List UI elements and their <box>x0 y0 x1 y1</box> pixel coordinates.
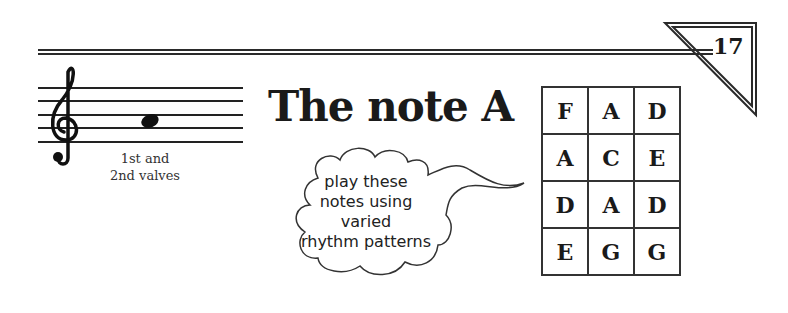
valve-caption: 1st and 2nd valves <box>90 150 200 184</box>
note-grid-row: E G G <box>542 228 680 275</box>
note-grid-row: A C E <box>542 134 680 181</box>
note-grid-cell: G <box>634 228 680 275</box>
note-grid-cell: E <box>634 134 680 181</box>
bubble-text: play these notes using varied rhythm pat… <box>296 172 436 252</box>
bubble-line1: play these <box>296 172 436 192</box>
note-grid-cell: A <box>588 181 634 228</box>
bubble-line2: notes using <box>296 192 436 212</box>
note-grid-row: F A D <box>542 87 680 134</box>
bubble-line3: varied <box>296 212 436 232</box>
note-grid: F A D A C E D A D E G G <box>541 86 681 276</box>
page-number: 17 <box>713 33 744 59</box>
note-grid-cell: D <box>634 87 680 134</box>
note-grid-cell: G <box>588 228 634 275</box>
bubble-line4: rhythm patterns <box>296 232 436 252</box>
note-grid-cell: D <box>634 181 680 228</box>
note-grid-cell: C <box>588 134 634 181</box>
note-grid-cell: F <box>542 87 588 134</box>
note-grid-cell: D <box>542 181 588 228</box>
treble-clef-icon <box>53 68 77 164</box>
note-grid-cell: A <box>588 87 634 134</box>
note-grid-cell: E <box>542 228 588 275</box>
page-title: The note A <box>268 82 513 131</box>
valve-caption-line1: 1st and <box>90 150 200 167</box>
valve-caption-line2: 2nd valves <box>90 167 200 184</box>
clef-tail-dot <box>53 152 63 162</box>
note-grid-cell: A <box>542 134 588 181</box>
note-grid-row: D A D <box>542 181 680 228</box>
